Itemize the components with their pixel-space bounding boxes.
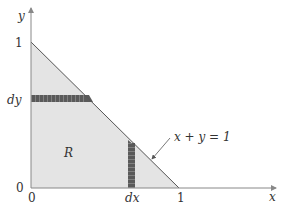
label-pointer-arrow	[152, 138, 170, 159]
y-tick-zero: 0	[16, 181, 24, 195]
x-tick-zero: 0	[28, 191, 36, 205]
x-tick-one: 1	[177, 191, 185, 205]
line-equation-label: x + y = 1	[174, 130, 231, 144]
x-tick-dx: dx	[125, 191, 140, 205]
y-tick-dy: dy	[7, 93, 22, 107]
region-diagram: y x 1 dy 0 0 dx 1 R x + y = 1	[0, 0, 293, 212]
diagram-canvas: y x 1 dy 0 0 dx 1 R x + y = 1	[0, 0, 293, 212]
y-axis-label: y	[17, 9, 25, 23]
region-label: R	[63, 146, 73, 160]
vertical-strip	[128, 143, 135, 188]
horizontal-strip	[31, 95, 89, 102]
y-tick-one: 1	[15, 36, 23, 50]
x-axis-label: x	[269, 190, 276, 204]
